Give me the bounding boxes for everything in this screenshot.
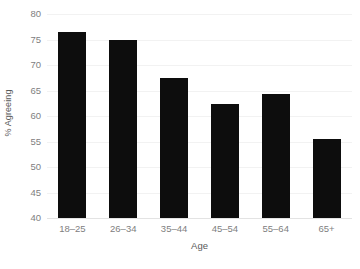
bar-series [47,14,352,218]
y-axis-tick-labels: 404550556065707580 [16,0,44,225]
bar-slot [98,14,149,218]
x-tick-label: 26–34 [98,221,149,237]
x-tick-label: 35–44 [149,221,200,237]
x-axis-title: Age [47,240,352,251]
bar-chart: % Agreeing 404550556065707580 18–2526–34… [0,0,360,269]
y-tick-label: 60 [30,111,41,121]
y-tick-label: 55 [30,137,41,147]
bar[interactable] [109,40,137,219]
x-axis-tick-labels: 18–2526–3435–4445–5455–6465+ [47,221,352,237]
x-tick-label: 65+ [301,221,352,237]
bar-slot [250,14,301,218]
y-tick-label: 65 [30,86,41,96]
y-axis-title-text: % Agreeing [3,89,13,136]
bar[interactable] [313,139,341,218]
y-tick-label: 50 [30,162,41,172]
y-tick-label: 40 [30,213,41,223]
bar-slot [47,14,98,218]
bar-slot [149,14,200,218]
y-tick-label: 80 [30,9,41,19]
y-tick-label: 45 [30,188,41,198]
y-axis-title: % Agreeing [0,0,16,225]
x-tick-label: 55–64 [250,221,301,237]
y-tick-label: 75 [30,35,41,45]
bar[interactable] [160,78,188,218]
bar-slot [199,14,250,218]
axis-baseline [47,218,352,219]
x-tick-label: 45–54 [199,221,250,237]
bar[interactable] [211,104,239,218]
plot-area [47,14,352,218]
bar[interactable] [262,94,290,218]
x-tick-label: 18–25 [47,221,98,237]
bar-slot [301,14,352,218]
y-tick-label: 70 [30,60,41,70]
bar[interactable] [58,32,86,218]
